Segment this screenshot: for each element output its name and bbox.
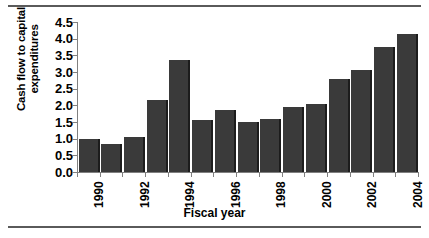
y-axis-title: Cash flow to capital expenditures bbox=[15, 0, 41, 134]
bar bbox=[238, 122, 257, 172]
y-tick-label: 3.5 bbox=[55, 49, 73, 62]
y-tick-mark bbox=[72, 89, 77, 90]
bar bbox=[283, 107, 302, 172]
bar bbox=[79, 139, 98, 172]
bar bbox=[147, 100, 166, 172]
y-tick-mark bbox=[72, 155, 77, 156]
y-tick-mark bbox=[72, 55, 77, 56]
y-tick-label: 2.0 bbox=[55, 99, 73, 112]
bar bbox=[215, 110, 234, 172]
bar bbox=[374, 47, 393, 172]
y-tick-label: 0.0 bbox=[55, 166, 73, 179]
y-tick-label: 2.5 bbox=[55, 82, 73, 95]
bar bbox=[397, 34, 416, 172]
y-tick-mark bbox=[72, 105, 77, 106]
bar bbox=[351, 70, 370, 172]
top-rule bbox=[8, 5, 421, 7]
x-axis-line bbox=[77, 172, 418, 173]
x-tick-label: 2002 bbox=[366, 181, 378, 208]
bar bbox=[124, 137, 143, 172]
x-tick-label: 1994 bbox=[184, 181, 196, 208]
bar bbox=[260, 119, 279, 172]
y-tick-label: 3.0 bbox=[55, 66, 73, 79]
y-axis-tick-labels: 0.00.51.01.52.02.53.03.54.04.5 bbox=[40, 15, 73, 180]
y-tick-mark bbox=[72, 72, 77, 73]
y-tick-mark bbox=[72, 39, 77, 40]
x-tick-label: 1996 bbox=[230, 181, 242, 208]
x-axis-title: Fiscal year bbox=[0, 206, 429, 220]
y-tick-label: 4.5 bbox=[55, 16, 73, 29]
plot-area bbox=[77, 22, 418, 172]
x-tick-label: 1992 bbox=[139, 181, 151, 208]
x-tick-label: 2004 bbox=[412, 181, 424, 208]
x-tick-label: 1998 bbox=[275, 181, 287, 208]
x-tick-mark bbox=[418, 172, 419, 177]
x-tick-label: 2000 bbox=[321, 181, 333, 208]
y-tick-mark bbox=[72, 139, 77, 140]
bar bbox=[192, 120, 211, 172]
bar bbox=[329, 79, 348, 172]
bottom-rule bbox=[8, 226, 421, 228]
x-tick-label: 1990 bbox=[93, 181, 105, 208]
y-tick-label: 0.5 bbox=[55, 149, 73, 162]
y-tick-label: 4.0 bbox=[55, 32, 73, 45]
y-tick-label: 1.0 bbox=[55, 132, 73, 145]
y-tick-mark bbox=[72, 22, 77, 23]
y-tick-mark bbox=[72, 122, 77, 123]
bar bbox=[101, 144, 120, 172]
y-tick-label: 1.5 bbox=[55, 116, 73, 129]
y-axis-title-line1: Cash flow to capital bbox=[15, 0, 28, 134]
bar bbox=[169, 60, 188, 172]
bar bbox=[306, 104, 325, 172]
